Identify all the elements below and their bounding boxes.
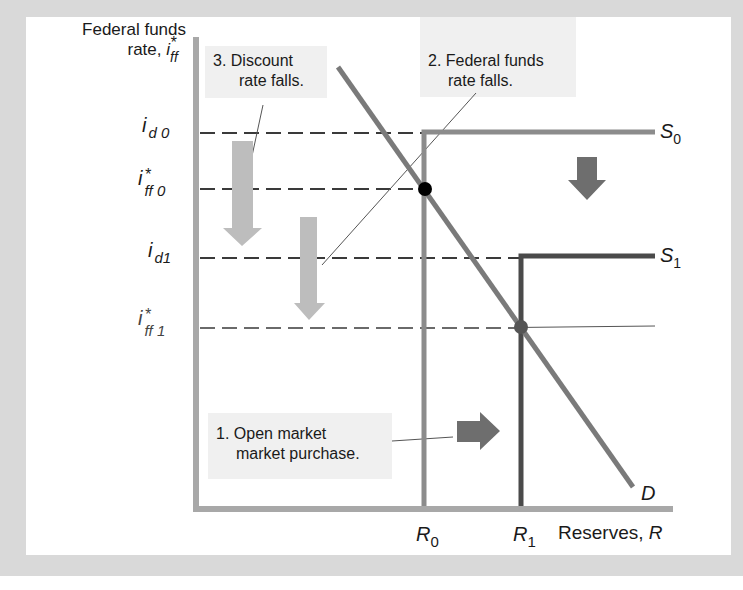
tick-r0-symbol: R — [416, 523, 430, 545]
note1-line1: 1. Open market — [216, 424, 360, 444]
note2-line2: rate falls. — [428, 71, 544, 91]
note3-leader — [252, 105, 263, 156]
tick-id0: id 0 — [142, 115, 169, 137]
tick-id1-symbol: i — [148, 239, 152, 261]
label-s1: S1 — [660, 245, 681, 267]
tick-iff1: i*ff 1 — [138, 308, 176, 328]
iff1-solid-line — [515, 326, 655, 328]
tick-id0-sub: d 0 — [148, 124, 169, 141]
label-s0-symbol: S — [660, 120, 673, 142]
reserves-shift-right-arrow-icon — [457, 412, 500, 450]
final-equilibrium-point — [514, 320, 528, 334]
tick-r1: R1 — [513, 524, 536, 546]
note1-line2: market purchase. — [216, 444, 360, 464]
note-ff-rate-falls: 2. Federal funds rate falls. — [428, 51, 544, 91]
label-s0-sub: 0 — [673, 131, 681, 147]
tick-iff1-sub: ff 1 — [144, 321, 165, 341]
label-s1-sub: 1 — [673, 255, 681, 271]
note3-line1: 3. Discount — [213, 51, 304, 71]
tick-iff0-sub: ff 0 — [144, 181, 165, 201]
tick-id1-sub: d1 — [154, 249, 171, 266]
initial-equilibrium-point — [418, 182, 432, 196]
supply-curve-s0 — [424, 132, 655, 509]
note3-line2: rate falls. — [213, 71, 304, 91]
x-axis-title-text: Reserves, — [558, 522, 649, 543]
note2-line1: 2. Federal funds — [428, 51, 544, 71]
tick-id0-symbol: i — [142, 114, 146, 136]
y-axis-title-line2: rate, i*ff — [40, 40, 186, 60]
supply-shift-down-arrow-icon — [568, 157, 606, 200]
discount-rate-down-arrow-icon — [223, 141, 262, 246]
x-axis-title: Reserves, R — [558, 523, 663, 543]
supply-curve-s1 — [521, 256, 655, 509]
tick-iff0: i*ff 0 — [138, 168, 176, 188]
label-s0: S0 — [660, 121, 681, 143]
note-open-market-purchase: 1. Open market market purchase. — [216, 424, 360, 464]
y-axis-title-line1: Federal funds — [40, 20, 186, 40]
label-s1-symbol: S — [660, 244, 673, 266]
note-discount-rate-falls: 3. Discount rate falls. — [213, 51, 304, 91]
y-axis-title-rate: rate, — [127, 40, 166, 59]
diagram-canvas — [0, 0, 743, 590]
y-axis-sub: ff — [170, 47, 178, 67]
tick-id1: id1 — [148, 240, 171, 262]
tick-r1-sub: 1 — [527, 533, 535, 550]
tick-r1-symbol: R — [513, 523, 527, 545]
y-axis-title: Federal funds rate, i*ff — [40, 20, 186, 60]
note2-leader — [322, 93, 476, 265]
leader-lines — [252, 93, 476, 441]
tick-r0-sub: 0 — [430, 533, 438, 550]
x-axis-symbol: R — [649, 522, 663, 543]
tick-r0: R0 — [416, 524, 439, 546]
ff-rate-down-arrow-icon — [294, 217, 325, 320]
label-d: D — [641, 483, 655, 503]
